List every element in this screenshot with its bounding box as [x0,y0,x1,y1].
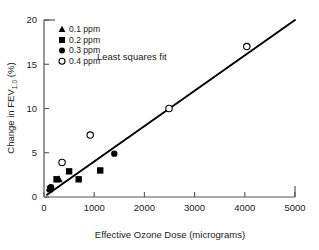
x-axis-ticks [44,192,295,197]
data-point-marker [53,176,59,182]
y-tick-label: 5 [32,147,37,158]
x-axis-title: Effective Ozone Dose (micrograms) [95,229,245,240]
annotation-label: Least squares fit [97,51,167,62]
legend-label: 0.3 ppm [69,45,100,55]
legend-marker [59,26,66,32]
x-tick-label: 2000 [134,202,155,213]
chart-figure: 05101520 010002000300040005000 Least squ… [0,0,319,250]
data-point-marker [166,105,172,111]
legend-marker [59,37,65,43]
legend-marker [59,58,65,64]
x-tick-label: 4000 [234,202,255,213]
y-axis-tick-labels: 05101520 [26,14,37,202]
chart-legend: 0.1 ppm0.2 ppm0.3 ppm0.4 ppm [59,24,101,66]
data-point-marker [48,184,54,190]
y-tick-label: 20 [26,14,37,25]
legend-item-0-3-ppm: 0.3 ppm [59,45,100,55]
y-axis-ticks [44,20,49,197]
data-point-marker [75,176,81,182]
data-point-marker [111,150,117,156]
data-point-marker [59,159,65,165]
chart-annotations: Least squares fit [97,51,167,62]
y-axis-title-units: (%) [5,62,16,79]
x-tick-label: 5000 [284,202,305,213]
y-axis-title-main: Change in FEV [5,89,16,154]
x-axis-tick-labels: 010002000300040005000 [41,202,305,213]
legend-label: 0.1 ppm [69,24,100,34]
y-axis-title: Change in FEV1.0 (%) [5,62,18,153]
data-point-marker [97,167,103,173]
data-point-marker [244,43,250,49]
y-tick-label: 15 [26,59,37,70]
legend-label: 0.2 ppm [69,35,100,45]
data-point-marker [87,132,93,138]
legend-marker [59,48,65,54]
y-axis-title-subscript: 1.0 [11,80,18,90]
legend-label: 0.4 ppm [69,56,100,66]
y-tick-label: 0 [32,191,37,202]
y-tick-label: 10 [26,103,37,114]
legend-item-0-2-ppm: 0.2 ppm [59,35,100,45]
x-tick-label: 1000 [84,202,105,213]
scatter-plot: 05101520 010002000300040005000 Least squ… [0,0,319,250]
x-tick-label: 0 [41,202,46,213]
data-point-marker [66,168,72,174]
legend-item-0-4-ppm: 0.4 ppm [59,56,100,66]
x-tick-label: 3000 [184,202,205,213]
legend-item-0-1-ppm: 0.1 ppm [59,24,101,34]
